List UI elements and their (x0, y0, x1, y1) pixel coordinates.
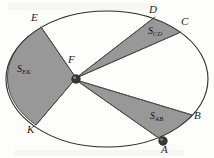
point-label-D: D (149, 4, 157, 15)
sector-CD-shape (76, 17, 181, 78)
sector-label-EK-subscript: EK (22, 68, 31, 75)
geometry-figure: E D C F B K A SEK SCD SAB (0, 0, 214, 158)
point-label-B: B (194, 110, 201, 121)
point-label-E: E (31, 12, 38, 23)
point-label-K: K (27, 124, 34, 135)
point-marker-A-highlight (160, 138, 163, 141)
point-label-C: C (181, 16, 188, 27)
sector-label-EK: SEK (17, 64, 31, 74)
point-marker-F (72, 75, 80, 83)
sector-AB-shape (76, 80, 192, 141)
sector-label-CD-subscript: CD (153, 30, 162, 37)
point-marker-F-highlight (73, 76, 76, 79)
point-label-F: F (68, 54, 75, 65)
sector-label-AB-subscript: AB (155, 115, 163, 122)
sector-label-AB: SAB (150, 111, 163, 121)
sector-label-CD: SCD (148, 26, 162, 36)
point-label-A: A (161, 144, 168, 155)
